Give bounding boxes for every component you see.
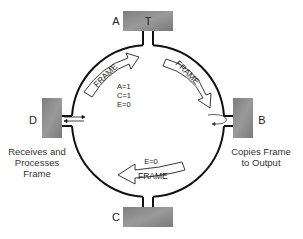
station-d: D — [29, 98, 62, 138]
station-b: B — [233, 98, 266, 138]
station-d-caption-line: Receives and — [5, 146, 69, 157]
status-bit-e-lower: E=0 — [144, 157, 158, 166]
station-d-label: D — [29, 114, 37, 126]
station-d-caption-line: Processes — [5, 157, 69, 168]
station-c: C — [112, 207, 173, 227]
frame-label-b-to-d: FRAME — [138, 171, 168, 181]
frame-arrow-a-to-b: FRAME — [163, 58, 211, 108]
station-c-label: C — [112, 211, 120, 223]
status-bit-e: E=0 — [117, 100, 131, 109]
status-bits-upper: A=1 C=1 E=0 — [117, 82, 131, 109]
status-bit-c: C=1 — [117, 91, 131, 100]
station-a-label: A — [112, 15, 120, 27]
station-a-inner-label: T — [145, 15, 152, 27]
station-b-caption-line: to Output — [226, 157, 296, 168]
station-d-caption-line: Frame — [5, 168, 69, 179]
status-bit-a: A=1 — [117, 82, 131, 91]
station-b-caption-line: Copies Frame — [226, 146, 296, 157]
station-d-caption: Receives and Processes Frame — [5, 146, 69, 179]
station-b-copy-arrow-icon — [208, 115, 226, 126]
station-b-caption: Copies Frame to Output — [226, 146, 296, 168]
token-ring-diagram: T A B C D FRAME FRAME FRAME A= — [0, 0, 303, 239]
station-b-label: B — [258, 114, 265, 126]
station-a: T A — [112, 11, 173, 31]
